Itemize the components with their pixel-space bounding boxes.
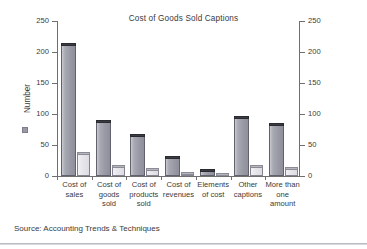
bar-face — [130, 134, 145, 176]
bar-secondary — [181, 172, 194, 176]
bar-top-cap — [269, 123, 284, 126]
bar-number — [234, 116, 249, 176]
bar-number — [165, 156, 180, 176]
right-axis-tick — [300, 83, 305, 84]
left-axis-tick — [52, 83, 57, 84]
bar-face — [61, 43, 76, 176]
right-axis-tick-label: 0 — [308, 172, 312, 180]
bar-number — [130, 134, 145, 176]
bar-top-cap — [250, 165, 263, 168]
bar-secondary — [77, 152, 90, 176]
left-axis-tick — [52, 114, 57, 115]
bar-number — [269, 123, 284, 176]
right-axis-tick-label: 150 — [308, 79, 321, 87]
left-axis-tick — [52, 145, 57, 146]
bar-face — [234, 116, 249, 176]
right-axis-line — [299, 21, 300, 177]
bar-top-cap — [146, 168, 159, 171]
bar-top-cap — [200, 169, 215, 172]
bottom-edge-highlight — [0, 244, 367, 245]
bar-top-cap — [285, 167, 298, 170]
right-axis-tick — [300, 176, 305, 177]
left-axis-tick-label: 100 — [36, 110, 49, 118]
bottom-edge-line — [0, 243, 367, 244]
right-axis-tick — [300, 21, 305, 22]
bar-top-cap — [216, 173, 229, 176]
right-axis-tick — [300, 52, 305, 53]
bar-secondary — [146, 168, 159, 176]
bar-top-cap — [181, 172, 194, 175]
chart-figure: Cost of Goods Sold Captions Number 25020… — [0, 0, 367, 249]
bar-top-cap — [234, 116, 249, 119]
source-note: Source: Accounting Trends & Techniques — [14, 224, 160, 233]
bar-secondary — [216, 173, 229, 176]
left-axis-tick-label: 150 — [36, 79, 49, 87]
bar-face — [165, 156, 180, 176]
right-axis-tick-label: 200 — [308, 48, 321, 56]
bar-top-cap — [61, 43, 76, 46]
left-axis-tick — [52, 21, 57, 22]
x-axis-category-labels: Cost of salesCost of goods soldCost of p… — [57, 180, 300, 228]
right-axis-tick-label: 100 — [308, 110, 321, 118]
right-axis-tick — [300, 114, 305, 115]
left-axis-tick-label: 250 — [36, 17, 49, 25]
bar-face — [269, 123, 284, 176]
plot-area: 250200150100500 250200150100500 — [57, 21, 300, 177]
bar-top-cap — [112, 165, 125, 168]
legend-swatch-number — [22, 127, 28, 133]
y-axis-label: Number — [23, 71, 32, 127]
right-axis-tick-label: 50 — [308, 141, 316, 149]
bar-number — [200, 169, 215, 176]
bar-number — [61, 43, 76, 176]
bar-top-cap — [130, 134, 145, 137]
bar-top-cap — [165, 156, 180, 159]
bar-face — [96, 120, 111, 176]
y-axis-caption: Number — [20, 72, 32, 142]
right-axis-tick-label: 250 — [308, 17, 321, 25]
bar-secondary — [112, 165, 125, 176]
right-axis-tick — [300, 145, 305, 146]
left-axis-tick-label: 200 — [36, 48, 49, 56]
bar-face — [77, 152, 90, 176]
left-axis-line — [57, 21, 58, 177]
left-axis-tick — [52, 52, 57, 53]
bar-top-cap — [77, 152, 90, 155]
left-axis-tick-label: 0 — [45, 172, 49, 180]
bar-secondary — [250, 165, 263, 176]
bar-number — [96, 120, 111, 176]
x-axis-line — [57, 176, 300, 177]
bar-top-cap — [96, 120, 111, 123]
x-axis-category-label: More than one amount — [261, 180, 304, 209]
left-axis-tick-label: 50 — [41, 141, 49, 149]
bar-secondary — [285, 167, 298, 176]
